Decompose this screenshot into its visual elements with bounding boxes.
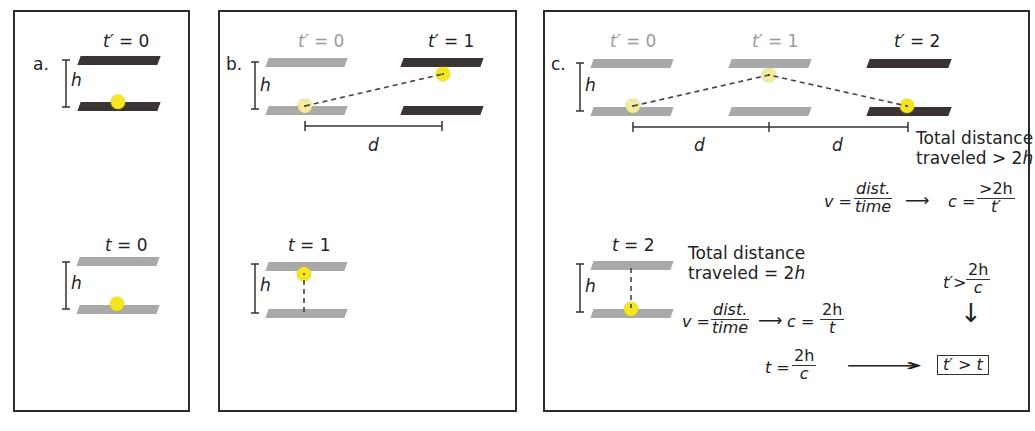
diagram-lines — [0, 0, 1035, 431]
